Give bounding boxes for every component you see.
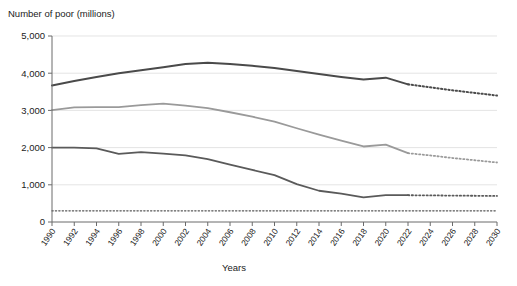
y-axis-ticks-group: 01,0002,0003,0004,0005,000 <box>21 30 52 227</box>
series-projection-upper-poverty-line <box>408 84 497 95</box>
y-tick-label: 4,000 <box>21 68 45 79</box>
x-tick-label: 1994 <box>83 226 102 247</box>
x-tick-label: 2024 <box>417 226 436 247</box>
x-tick-label: 2014 <box>306 226 325 247</box>
data-series-group <box>52 63 497 211</box>
x-tick-label: 2020 <box>372 226 391 247</box>
x-tick-label: 2008 <box>239 226 258 247</box>
y-tick-label: 1,000 <box>21 179 45 190</box>
poverty-line-chart: Number of poor (millions) Years 01,0002,… <box>0 0 517 286</box>
x-tick-label: 2026 <box>439 226 458 247</box>
x-tick-label: 2010 <box>261 226 280 247</box>
x-tick-label: 2002 <box>172 226 191 247</box>
x-tick-label: 2022 <box>395 226 414 247</box>
y-tick-label: 5,000 <box>21 30 45 41</box>
x-tick-label: 1998 <box>128 226 147 247</box>
x-tick-label: 2030 <box>484 226 503 247</box>
x-tick-label: 1990 <box>39 226 58 247</box>
x-tick-label: 2006 <box>217 226 236 247</box>
x-tick-label: 2018 <box>350 226 369 247</box>
series-projection-middle-poverty-line <box>408 153 497 162</box>
chart-plot-area: 01,0002,0003,0004,0005,000 1990199219941… <box>0 0 517 286</box>
x-tick-label: 1992 <box>61 226 80 247</box>
x-axis-ticks-group: 1990199219941996199820002002200420062008… <box>39 222 503 248</box>
y-tick-label: 3,000 <box>21 105 45 116</box>
x-tick-label: 1996 <box>105 226 124 247</box>
y-tick-label: 2,000 <box>21 142 45 153</box>
gridlines-group <box>52 36 497 185</box>
x-tick-label: 2012 <box>283 226 302 247</box>
series-line-upper-poverty-line <box>52 63 408 86</box>
x-tick-label: 2028 <box>461 226 480 247</box>
x-tick-label: 2000 <box>150 226 169 247</box>
series-line-middle-poverty-line <box>52 104 408 153</box>
series-line-lower-poverty-line <box>52 148 408 198</box>
series-projection-lower-poverty-line <box>408 195 497 196</box>
x-tick-label: 2004 <box>194 226 213 247</box>
x-tick-label: 2016 <box>328 226 347 247</box>
y-tick-label: 0 <box>40 216 45 227</box>
